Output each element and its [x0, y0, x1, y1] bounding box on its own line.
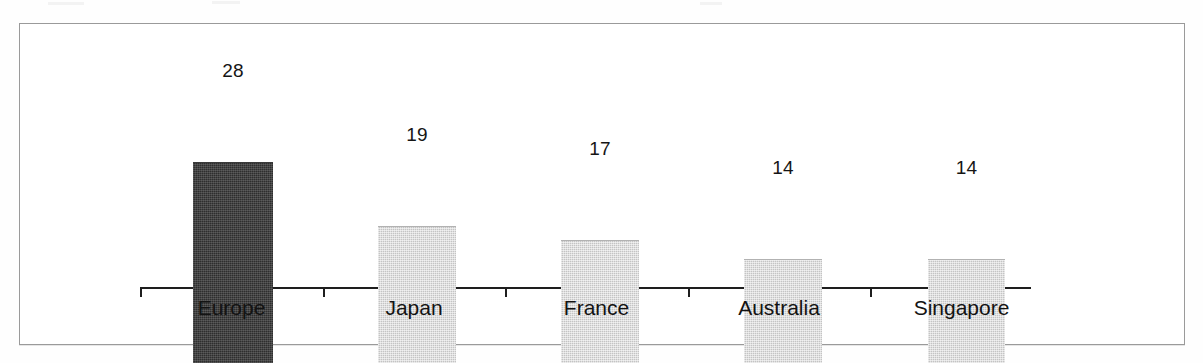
bar-value-australia: 14 — [744, 158, 822, 177]
bar-france — [561, 75, 639, 363]
x-axis-tick-2 — [505, 288, 507, 297]
x-axis-tick-4 — [870, 288, 872, 297]
bar-value-japan: 19 — [378, 125, 456, 144]
x-axis-tick-1 — [323, 288, 325, 297]
bar-europe — [193, 75, 273, 363]
category-label-japan: Japan — [323, 297, 505, 318]
bar-japan — [378, 75, 456, 363]
bar-value-singapore: 14 — [928, 158, 1005, 177]
category-label-europe: Europe — [140, 297, 323, 318]
x-axis-tick-0 — [140, 288, 142, 297]
bar-rect-japan — [378, 226, 456, 363]
bar-rect-europe — [193, 162, 273, 363]
category-label-france: France — [505, 297, 688, 318]
x-axis-tick-3 — [688, 288, 690, 297]
chart-page: 28 Europe 19 Japan 17 France 14 Australi… — [0, 0, 1203, 363]
chart-plot-area: 28 Europe 19 Japan 17 France 14 Australi… — [0, 0, 1203, 363]
bar-australia — [744, 75, 822, 363]
category-label-australia: Australia — [688, 297, 870, 318]
bar-value-europe: 28 — [193, 61, 273, 80]
bar-singapore — [928, 75, 1005, 363]
bar-value-france: 17 — [561, 139, 639, 158]
category-label-singapore: Singapore — [870, 297, 1053, 318]
